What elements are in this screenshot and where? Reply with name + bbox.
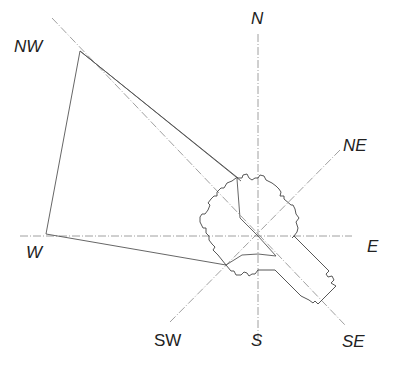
label-south: S: [251, 332, 262, 349]
inner-line-nw: [80, 51, 241, 181]
building-plan: [200, 174, 336, 304]
rotunda-outline-lower: [226, 265, 258, 276]
nw-to-w-line: [46, 51, 80, 234]
label-west: W: [26, 244, 42, 261]
label-north: N: [251, 10, 263, 27]
label-east: E: [367, 238, 378, 255]
label-southeast: SE: [342, 333, 365, 350]
label-southwest: SW: [154, 332, 181, 349]
label-northwest: NW: [14, 38, 42, 55]
compass-orientation-diagram: [0, 0, 395, 370]
compass-axes: [20, 18, 352, 345]
sight-lines: [46, 51, 276, 265]
rotunda-outline: [200, 174, 299, 265]
label-northeast: NE: [343, 137, 367, 154]
w-to-building-line: [46, 234, 226, 265]
